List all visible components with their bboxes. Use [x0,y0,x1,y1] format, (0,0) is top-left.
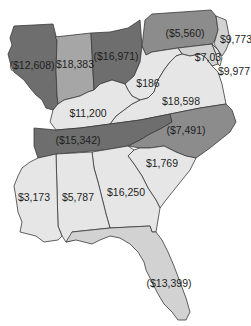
label-indiana: $18,383 [56,58,94,70]
label-kentucky: $11,200 [69,107,106,119]
label-georgia: $16,250 [107,186,145,198]
state-florida [66,226,190,320]
label-alabama: $5,787 [62,191,94,203]
label-north-carolina: ($7,491) [166,124,205,136]
label-delaware: $9,977 [218,65,250,77]
label-maryland: $7,03 [195,51,221,63]
choropleth-map: ($12,608) $18,383 ($16,971) ($5,560) $9,… [0,0,251,326]
label-ohio: ($16,971) [94,50,139,62]
label-west-virginia: $186 [136,77,160,89]
label-virginia: $18,598 [162,95,200,107]
label-illinois: ($12,608) [10,59,55,71]
label-florida: ($13,399) [147,277,192,289]
label-tennessee: ($15,342) [56,134,101,146]
label-mississippi: $3,173 [18,191,50,203]
label-pennsylvania: ($5,560) [165,27,204,39]
label-south-carolina: $1,769 [146,157,178,169]
label-new-jersey: $9,773 [220,33,251,45]
